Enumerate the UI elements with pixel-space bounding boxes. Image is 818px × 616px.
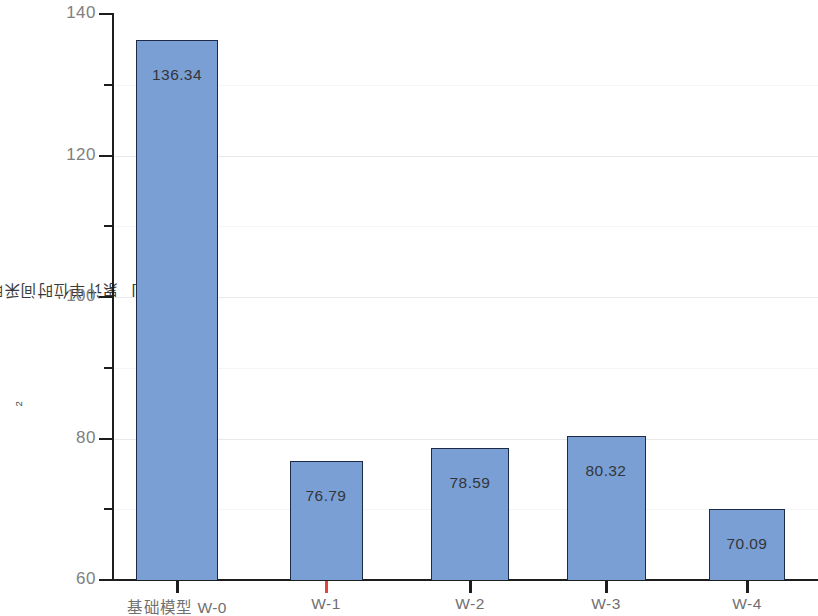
x-axis-tick-label: W-1 xyxy=(311,595,340,613)
y-axis-tick-major xyxy=(99,13,113,15)
y-axis-tick-major xyxy=(99,579,113,581)
y-axis-tick-major xyxy=(99,296,113,298)
y-axis-tick-minor xyxy=(104,225,113,227)
y-axis-tick-minor xyxy=(104,367,113,369)
y-axis-tick-label: 80 xyxy=(36,428,96,448)
bar xyxy=(431,448,509,580)
y-axis-tick-label: 100 xyxy=(36,286,96,306)
x-axis-tick xyxy=(176,581,179,593)
bar-chart: 累计单位时间采暖能耗 [kWh/(m2·a)] 6080100120140136… xyxy=(0,0,818,616)
x-axis-tick-label: W-3 xyxy=(591,595,620,613)
x-axis-tick xyxy=(605,581,608,593)
bar-value-label: 78.59 xyxy=(450,474,491,492)
bar-value-label: 80.32 xyxy=(586,462,627,480)
x-axis-tick-label: W-4 xyxy=(732,595,761,613)
x-axis-tick xyxy=(469,581,472,593)
bar-value-label: 136.34 xyxy=(152,66,202,84)
x-axis-tick-highlight xyxy=(325,581,328,593)
y-axis-tick-major xyxy=(99,155,113,157)
y-axis-tick-label: 140 xyxy=(36,3,96,23)
bar-value-label: 76.79 xyxy=(306,487,347,505)
x-axis-tick-label: 基础模型 W-0 xyxy=(127,595,227,616)
y-axis-tick-major xyxy=(99,438,113,440)
y-axis-tick-label: 60 xyxy=(36,569,96,589)
bar xyxy=(290,461,363,580)
x-axis-tick-label: W-2 xyxy=(455,595,484,613)
bar-value-label: 70.09 xyxy=(727,535,768,553)
x-axis-tick xyxy=(746,581,749,593)
y-axis-tick-minor xyxy=(104,508,113,510)
bar xyxy=(136,40,218,580)
y-axis-tick-label: 120 xyxy=(36,145,96,165)
y-axis-tick-minor xyxy=(104,84,113,86)
chart-overlay: 6080100120140136.34基础模型 W-076.79W-178.59… xyxy=(0,0,818,616)
bar xyxy=(567,436,646,580)
